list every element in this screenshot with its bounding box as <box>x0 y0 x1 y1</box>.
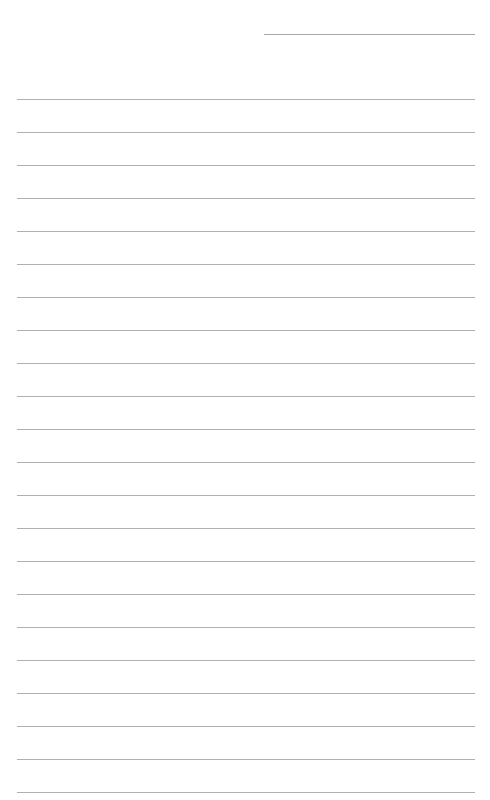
ruled-line <box>17 198 475 199</box>
ruled-line <box>17 693 475 694</box>
ruled-line <box>17 99 475 100</box>
ruled-line <box>17 561 475 562</box>
ruled-line <box>17 594 475 595</box>
ruled-line <box>17 297 475 298</box>
ruled-line <box>17 396 475 397</box>
ruled-line <box>17 231 475 232</box>
ruled-line <box>17 495 475 496</box>
ruled-line <box>17 429 475 430</box>
ruled-line <box>17 264 475 265</box>
ruled-line <box>17 528 475 529</box>
ruled-line <box>17 792 475 793</box>
header-title-line <box>264 34 475 35</box>
ruled-line <box>17 132 475 133</box>
ruled-line <box>17 759 475 760</box>
ruled-line <box>17 660 475 661</box>
ruled-line <box>17 726 475 727</box>
ruled-line <box>17 627 475 628</box>
ruled-line <box>17 165 475 166</box>
ruled-line <box>17 330 475 331</box>
ruled-line <box>17 363 475 364</box>
ruled-line <box>17 462 475 463</box>
